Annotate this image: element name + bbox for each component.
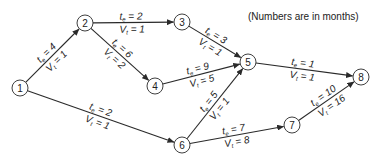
node-label: 1: [17, 83, 23, 94]
edge-label-6-7: te = 7Vt = 8: [221, 121, 251, 150]
variance-label: Vt = 1: [289, 69, 316, 84]
edge-1-2: [26, 29, 79, 82]
node-2: 2: [77, 15, 93, 31]
node-label: 7: [289, 120, 295, 131]
variance-label: Vt = 1: [120, 23, 145, 35]
edge-label-6-5: te = 5Vt = 1: [197, 87, 232, 122]
edge-label-4-5: te = 9Vt = 5: [185, 59, 216, 90]
node-label: 4: [152, 81, 158, 92]
node-7: 7: [284, 117, 300, 133]
node-6: 6: [174, 137, 190, 153]
edge-labels-layer: te = 4Vt = 1te = 2Vt = 1te = 6Vt = 2te =…: [34, 10, 348, 150]
edge-label-7-8: te = 10Vt = 16: [308, 81, 348, 119]
edge-label-5-8: te = 1Vt = 1: [289, 56, 317, 84]
network-canvas: te = 4Vt = 1te = 2Vt = 1te = 6Vt = 2te =…: [0, 0, 383, 159]
expected-time-label: te = 2: [119, 10, 143, 22]
edge-label-1-6: te = 2Vt = 1: [83, 101, 115, 133]
edge-label-3-5: te = 3Vt = 1: [196, 24, 231, 58]
node-4: 4: [147, 78, 163, 94]
node-label: 6: [179, 140, 185, 151]
node-5: 5: [240, 54, 256, 70]
edge-2-4: [91, 28, 149, 80]
node-3: 3: [174, 14, 190, 30]
node-label: 5: [245, 57, 251, 68]
edge-label-2-3: te = 2Vt = 1: [119, 10, 145, 35]
node-1: 1: [12, 80, 28, 96]
pert-network-diagram: te = 4Vt = 1te = 2Vt = 1te = 6Vt = 2te =…: [0, 0, 383, 159]
node-label: 8: [358, 72, 364, 83]
edge-1-6: [28, 91, 174, 143]
node-8: 8: [353, 69, 369, 85]
node-label: 3: [179, 17, 185, 28]
node-label: 2: [82, 18, 88, 29]
units-note: (Numbers are in months): [248, 11, 359, 22]
